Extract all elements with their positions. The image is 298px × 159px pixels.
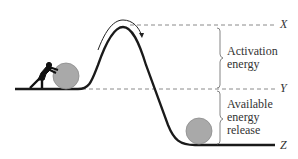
activation-label-line2: energy (227, 58, 259, 71)
release-brace (217, 91, 223, 144)
boulder-start (53, 63, 79, 89)
activation-brace (217, 28, 223, 88)
release-label-line3: release (227, 124, 260, 137)
level-x-label: X (280, 18, 287, 31)
level-y-label: Y (280, 82, 287, 95)
boulder-bottom (186, 118, 212, 144)
level-z-label: Z (280, 139, 287, 152)
arrowhead-icon (139, 33, 144, 38)
activation-energy-diagram: X Y Z Activation energy Available energy… (0, 0, 298, 159)
